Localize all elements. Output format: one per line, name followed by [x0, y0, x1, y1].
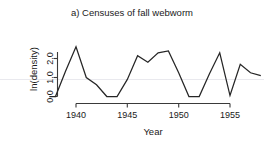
x-tick-label-1950: 1950 — [169, 110, 189, 120]
y-axis-title: ln(density) — [28, 47, 39, 91]
x-tick-label-1955: 1955 — [220, 110, 240, 120]
chart-title: a) Censuses of fall webworm — [71, 7, 193, 18]
chart-figure: a) Censuses of fall webworm 0.0 1.0 2.0 … — [0, 0, 264, 144]
y-tick-label-1: 1.0 — [45, 71, 55, 84]
y-tick-label-2: 2.0 — [45, 52, 55, 65]
x-tick-label-1940: 1940 — [66, 110, 86, 120]
x-tick-label-1945: 1945 — [117, 110, 137, 120]
x-axis-title: Year — [143, 126, 162, 137]
